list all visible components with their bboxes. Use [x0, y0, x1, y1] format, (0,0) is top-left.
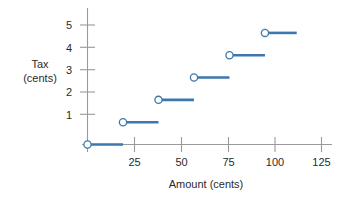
x-axis-label: Amount (cents) [140, 178, 272, 190]
step-endpoint-marker [119, 119, 126, 126]
y-tick-label: 5 [66, 19, 72, 31]
step-endpoint-marker [226, 52, 233, 59]
x-tick-label: 25 [128, 156, 140, 168]
step-endpoint-marker [155, 96, 162, 103]
x-tick-label: 50 [175, 156, 187, 168]
x-tick-label: 125 [312, 156, 330, 168]
y-axis-label: Tax (cents) [4, 58, 76, 85]
step-endpoint-marker [261, 29, 268, 36]
y-tick-label: 1 [66, 109, 72, 121]
x-tick-labels: 25 50 75 100 125 [128, 156, 330, 168]
y-axis-label-line2: (cents) [4, 72, 76, 86]
y-axis-label-line1: Tax [4, 58, 76, 72]
step-endpoint-marker [84, 141, 91, 148]
step-series [84, 29, 297, 148]
y-tick-label: 4 [66, 42, 72, 54]
step-endpoint-marker [190, 74, 197, 81]
plot-area: 5 4 3 2 1 25 50 75 100 125 [0, 0, 342, 203]
x-tick-label: 100 [266, 156, 284, 168]
x-tick-label: 75 [222, 156, 234, 168]
step-function-chart: 5 4 3 2 1 25 50 75 100 125 Tax (cents) A… [0, 0, 342, 203]
y-tick-label: 2 [66, 86, 72, 98]
